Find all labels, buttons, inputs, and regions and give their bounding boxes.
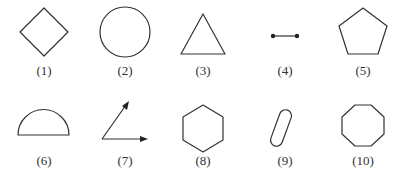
octagon-shape: [342, 105, 384, 146]
diamond-shape: [20, 8, 68, 56]
triangle-shape: [181, 14, 225, 54]
semicircle-shape: [18, 110, 69, 135]
figure-label-10: (10): [352, 153, 374, 169]
figure-label-9: (9): [277, 153, 292, 169]
figure-label-5: (5): [355, 63, 370, 79]
hexagon-shape: [183, 105, 223, 152]
ray-up: [102, 105, 126, 139]
figure-label-7: (7): [117, 153, 132, 169]
figure-label-2: (2): [117, 63, 132, 79]
figure-label-4: (4): [277, 63, 292, 79]
figure-label-8: (8): [195, 153, 210, 169]
figure-label-3: (3): [195, 63, 210, 79]
pentagon-shape: [339, 8, 387, 54]
figure-label-6: (6): [36, 153, 51, 169]
segment-endpoint-right: [295, 34, 299, 38]
shapes-diagram: [0, 0, 400, 176]
arrowhead-right: [140, 136, 148, 142]
figure-label-1: (1): [36, 63, 51, 79]
capsule-shape: [269, 108, 293, 148]
segment-endpoint-left: [271, 34, 275, 38]
circle-shape: [100, 7, 150, 57]
